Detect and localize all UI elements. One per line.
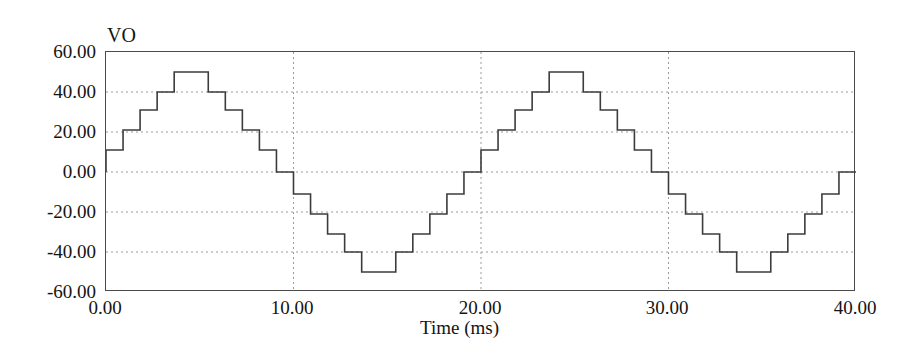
plot-area (105, 51, 855, 291)
y-tick-label-0: 0.00 (0, 162, 96, 181)
x-axis-title: Time (ms) (0, 318, 919, 337)
x-tick-label-20: 20.00 (420, 298, 540, 317)
x-tick-label-0: 0.00 (45, 298, 165, 317)
y-tick-label-20: 20.00 (0, 122, 96, 141)
x-tick-label-30: 30.00 (607, 298, 727, 317)
y-tick-label-neg40: -40.00 (0, 242, 96, 261)
waveform-series (106, 52, 856, 292)
y-axis-title: VO (107, 25, 136, 45)
y-tick-label-neg20: -20.00 (0, 202, 96, 221)
y-tick-label-60: 60.00 (0, 42, 96, 61)
x-tick-label-40: 40.00 (795, 298, 915, 317)
y-tick-label-40: 40.00 (0, 82, 96, 101)
x-tick-label-10: 10.00 (232, 298, 352, 317)
chart-figure: VO 60.00 40.00 20.00 0.00 -20.00 -40.00 … (0, 0, 919, 357)
